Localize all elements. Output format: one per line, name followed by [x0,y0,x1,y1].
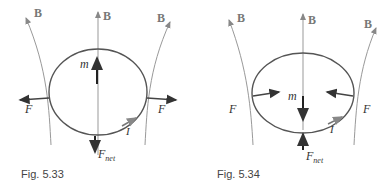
field-label-center: B [103,9,111,23]
diagram-5-33: B B B I m F F Fnet [0,0,196,188]
moment-label: m [80,57,89,71]
figure-caption: Fig. 5.34 [217,168,260,180]
field-label-left: B [237,11,245,25]
moment-label: m [288,89,297,103]
figure-5-33: B B B I m F F Fnet Fig. 5.33 [0,0,196,188]
force-label-left: F [24,102,33,116]
net-force-label: Fnet [97,147,116,163]
current-label: I [125,125,131,137]
figure-caption: Fig. 5.33 [21,168,64,180]
field-line-right [145,22,170,145]
force-arrow-left-icon [253,92,279,96]
net-force-label: Fnet [305,149,324,165]
field-line-right [354,28,376,145]
force-arrow-left-icon [20,98,49,100]
field-line-left [26,18,51,145]
force-arrow-right-icon [147,98,176,100]
force-label-left: F [228,102,237,116]
diagram-5-34: B B B I m F F Fnet [196,0,392,188]
force-arrow-right-icon [327,92,353,96]
figure-5-34: B B B I m F F Fnet Fig. 5.34 [196,0,392,188]
field-label-right: B [157,11,165,25]
field-label-left: B [34,6,42,20]
field-label-center: B [308,13,316,27]
force-label-right: F [157,102,166,116]
force-label-right: F [362,102,371,116]
field-label-right: B [364,17,372,31]
field-line-left [229,20,253,145]
